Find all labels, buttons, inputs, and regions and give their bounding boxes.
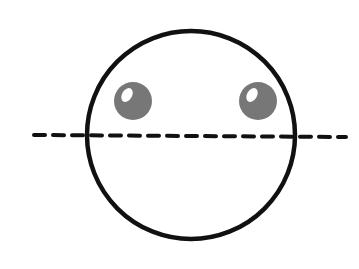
- dashed-horizontal-line: [34, 135, 346, 137]
- left-eye-pupil: [114, 82, 152, 120]
- diagram-canvas: [0, 0, 359, 269]
- right-eye: [239, 82, 277, 120]
- right-eye-pupil: [239, 82, 277, 120]
- left-eye: [114, 82, 152, 120]
- face-diagram: [0, 0, 359, 269]
